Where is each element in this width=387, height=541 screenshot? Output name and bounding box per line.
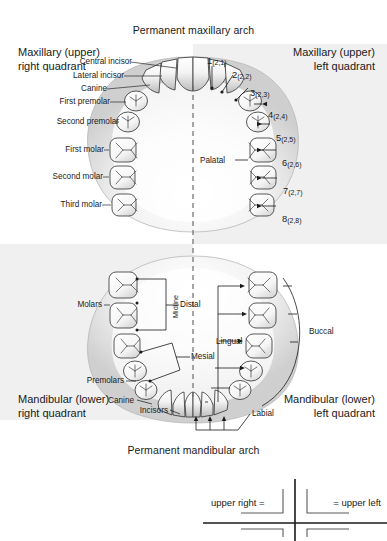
tooth-label-second-premolar: Second premolar — [31, 117, 119, 126]
tooth-number-7-fdi: (2,7) — [288, 189, 302, 196]
legend-label-upper-right: upper right = — [211, 497, 265, 508]
tooth-label-third-molar: Third molar — [20, 200, 102, 209]
tooth-number-8: 8(2,8) — [282, 214, 302, 224]
tooth-number-4: 4(2,4) — [268, 110, 288, 120]
surface-label-lingual: Lingual — [216, 337, 242, 346]
quadrant-upper-left-line2: left quadrant — [293, 60, 375, 74]
tooth-number-8-fdi: (2,8) — [287, 217, 301, 224]
tooth-number-1: 1(2,1) — [207, 56, 227, 66]
tooth-number-3: 3(2,3) — [250, 88, 270, 98]
group-label-premolars: Premolars — [56, 376, 124, 385]
surface-label-buccal: Buccal — [309, 327, 334, 336]
dental-arch-diagram: Permanent maxillary arch Permanent mandi… — [0, 0, 387, 541]
tooth-number-3-fdi: (2,3) — [255, 91, 269, 98]
tooth-number-2: 2(2,2) — [232, 70, 252, 80]
quadrant-label-lower-left: Mandibular (lower) left quadrant — [284, 393, 375, 420]
tooth-label-central-incisor: Central incisor — [48, 57, 132, 66]
surface-label-distal: Distal — [180, 300, 200, 309]
tooth-label-lateral-incisor: Lateral incisor — [40, 71, 124, 80]
tooth-label-canine: Canine — [23, 84, 107, 93]
quadrant-lower-left-line2: left quadrant — [284, 407, 375, 421]
tooth-number-5-fdi: (2,5) — [281, 136, 295, 143]
tooth-label-second-molar: Second molar — [15, 172, 103, 181]
legend-label-upper-left: = upper left — [333, 497, 381, 508]
tooth-number-7: 7(2,7) — [283, 186, 303, 196]
surface-label-labial: Labial — [252, 409, 274, 418]
maxillary-arch-title: Permanent maxillary arch — [0, 24, 387, 36]
midline-label: Midline — [171, 295, 180, 318]
mandibular-arch-title: Permanent mandibular arch — [0, 444, 387, 456]
tooth-number-4-fdi: (2,4) — [273, 113, 287, 120]
tooth-number-6: 6(2,6) — [282, 158, 302, 168]
group-label-incisors: Incisors — [118, 406, 168, 415]
quadrant-lower-left-line1: Mandibular (lower) — [284, 393, 375, 407]
tooth-label-first-premolar: First premolar — [26, 97, 110, 106]
tooth-number-1-fdi: (2,1) — [212, 59, 226, 66]
quadrant-upper-left-line1: Maxillary (upper) — [293, 46, 375, 60]
tooth-number-6-fdi: (2,6) — [287, 161, 301, 168]
quadrant-notation-legend: upper right = = upper left — [203, 479, 387, 541]
quadrant-label-upper-left: Maxillary (upper) left quadrant — [293, 46, 375, 73]
tooth-number-5: 5(2,5) — [276, 133, 296, 143]
legend-cross-artwork — [203, 479, 387, 541]
quadrant-lower-right-line2: right quadrant — [18, 407, 109, 421]
group-label-molars: Molars — [48, 300, 102, 309]
arch-artwork — [0, 0, 387, 541]
surface-label-mesial: Mesial — [191, 352, 215, 361]
tooth-label-first-molar: First molar — [20, 145, 104, 154]
group-label-canine: Canine — [84, 396, 134, 405]
surface-label-palatal: Palatal — [200, 156, 225, 165]
tooth-number-2-fdi: (2,2) — [237, 73, 251, 80]
